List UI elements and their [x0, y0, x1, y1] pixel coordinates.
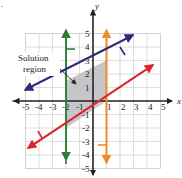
problem-marker: . — [1, 0, 3, 9]
svg-text:-4: -4 — [82, 150, 90, 160]
y-axis-label: y — [94, 1, 99, 11]
svg-text:-5: -5 — [22, 102, 30, 112]
blue-shade-marker — [120, 47, 125, 55]
svg-text:-3: -3 — [82, 137, 90, 147]
svg-text:2: 2 — [121, 102, 126, 112]
svg-text:-5: -5 — [82, 164, 90, 174]
svg-text:5: 5 — [85, 29, 90, 39]
svg-text:4: 4 — [148, 102, 153, 112]
svg-text:5: 5 — [161, 102, 166, 112]
svg-text:1: 1 — [107, 102, 112, 112]
svg-text:4: 4 — [85, 42, 90, 52]
svg-text:3: 3 — [134, 102, 139, 112]
svg-text:-2: -2 — [82, 123, 90, 133]
annotation-line1: Solution — [18, 53, 49, 63]
x-axis-label: x — [176, 96, 181, 106]
svg-text:1: 1 — [85, 83, 90, 93]
svg-text:2: 2 — [85, 69, 90, 79]
svg-text:-4: -4 — [35, 102, 43, 112]
red-shade-marker — [38, 131, 42, 138]
inequality-graph: x y -5 -4 -3 -2 -1 1 2 3 4 5 5 4 3 2 1 -… — [0, 0, 182, 178]
annotation-line2: region — [23, 64, 46, 74]
svg-text:-3: -3 — [49, 102, 57, 112]
